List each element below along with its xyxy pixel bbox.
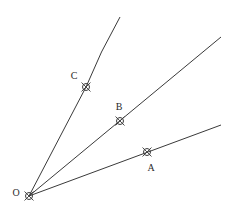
point-marker-a-icon	[143, 148, 152, 157]
point-marker-o-icon	[25, 192, 34, 201]
ray-oc	[29, 17, 120, 196]
point-marker-b-icon	[116, 117, 125, 126]
label-c: C	[71, 71, 78, 81]
point-marker-c-icon	[82, 83, 91, 92]
label-o: O	[12, 188, 19, 198]
label-b: B	[116, 102, 123, 112]
ray-oa	[29, 125, 221, 196]
ray-ob	[29, 37, 221, 196]
label-a: A	[147, 163, 154, 173]
